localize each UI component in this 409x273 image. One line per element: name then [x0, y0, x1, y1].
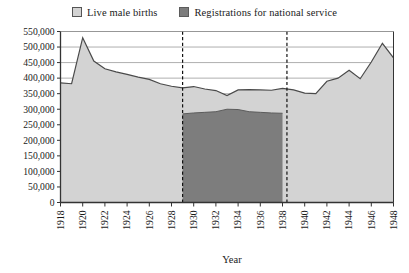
x-axis-tick-label: 1942: [321, 210, 332, 229]
chart-legend: Live male births Registrations for natio…: [0, 4, 409, 20]
x-axis-tick-label: 1934: [233, 210, 244, 229]
y-axis-tick-label: 550,000: [23, 26, 54, 37]
legend-entry-live-male-births: Live male births: [72, 7, 157, 18]
y-axis-tick-label: 350,000: [23, 88, 54, 99]
y-axis-tick-labels: 050,000100,000150,000200,000250,000300,0…: [23, 26, 60, 208]
x-axis-tick-label: 1940: [299, 210, 310, 229]
legend-label-registrations-for-national-service: Registrations for national service: [194, 7, 336, 18]
x-axis-tick-label: 1920: [77, 210, 88, 229]
y-axis-tick-label: 450,000: [23, 57, 54, 68]
x-axis-title: Year: [222, 254, 242, 265]
x-axis-tick-label: 1948: [388, 210, 399, 229]
chart-svg: 050,000100,000150,000200,000250,000300,0…: [0, 20, 409, 273]
y-axis-tick-label: 150,000: [23, 150, 54, 161]
chart-figure: Live male births Registrations for natio…: [0, 0, 409, 273]
x-axis-tick-label: 1928: [166, 210, 177, 229]
y-axis-tick-label: 100,000: [23, 166, 54, 177]
y-axis-tick-label: 50,000: [28, 181, 55, 192]
legend-entry-registrations-for-national-service: Registrations for national service: [179, 7, 336, 18]
x-axis-tick-label: 1918: [55, 210, 66, 229]
x-axis-tick-label: 1922: [99, 210, 110, 229]
y-axis-tick-label: 500,000: [23, 41, 54, 52]
plot-area: 050,000100,000150,000200,000250,000300,0…: [0, 20, 409, 273]
y-axis-tick-label: 0: [50, 197, 55, 208]
x-axis-tick-label: 1926: [144, 210, 155, 229]
x-axis-tick-label: 1946: [366, 210, 377, 229]
y-axis-tick-label: 250,000: [23, 119, 54, 130]
x-axis-tick-label: 1932: [210, 210, 221, 229]
x-axis-tick-label: 1924: [121, 210, 132, 229]
y-axis-tick-label: 200,000: [23, 135, 54, 146]
x-axis-tick-label: 1944: [344, 210, 355, 229]
y-axis-tick-label: 300,000: [23, 104, 54, 115]
series-area-registrations: [183, 109, 283, 202]
x-axis-tick-label: 1930: [188, 210, 199, 229]
x-axis-tick-label: 1938: [277, 210, 288, 229]
legend-swatch-light-gray-square: [72, 7, 82, 17]
y-axis-tick-label: 400,000: [23, 72, 54, 83]
x-axis-tick-label: 1936: [255, 210, 266, 229]
x-axis-tick-labels: 1918192019221924192619281930193219341936…: [55, 203, 399, 230]
legend-label-live-male-births: Live male births: [87, 7, 157, 18]
legend-swatch-dark-gray-square: [179, 7, 189, 17]
